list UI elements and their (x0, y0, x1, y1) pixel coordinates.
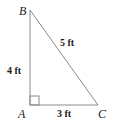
vertex-label-a: A (17, 107, 26, 121)
side-label-bc: 5 ft (60, 37, 75, 48)
side-label-ac: 3 ft (57, 108, 72, 119)
right-triangle-diagram: B A C 4 ft 5 ft 3 ft (0, 0, 115, 127)
right-angle-marker (30, 96, 39, 105)
triangle (30, 10, 98, 105)
vertex-label-c: C (98, 107, 107, 121)
side-label-ab: 4 ft (7, 65, 22, 76)
vertex-label-b: B (19, 4, 27, 18)
